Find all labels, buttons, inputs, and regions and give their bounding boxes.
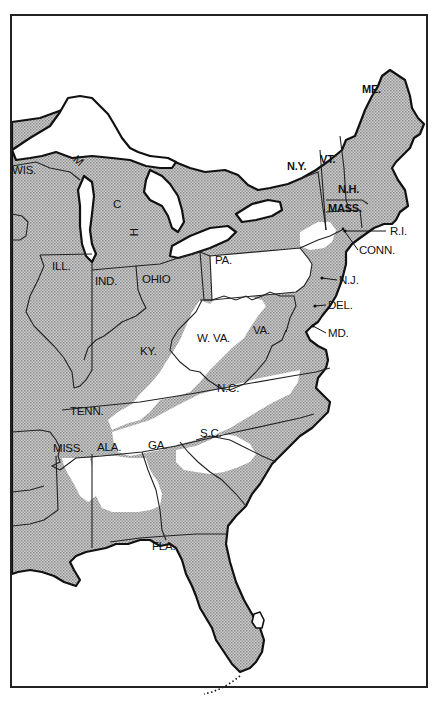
label-miss: MISS. [53,442,83,454]
label-conn: CONN. [359,244,395,256]
label-mich-h: H [128,228,140,236]
label-ga: GA. [148,439,167,451]
label-ri: R.I. [390,225,407,237]
label-wis: WIS. [12,164,36,176]
label-fla: FLA. [152,540,176,552]
lake-okeechobee [252,612,264,628]
label-nh: N.H. [338,183,359,195]
label-nc: N.C. [217,382,239,394]
label-sc: S.C. [200,427,222,439]
label-tenn: TENN. [70,405,104,417]
label-ohio: OHIO [142,273,171,285]
label-nj: N.J. [339,274,359,286]
label-ky: KY. [140,345,156,357]
label-md: MD. [328,327,348,339]
label-ill: ILL. [52,260,70,272]
eastern-us-map: WIS. M C H ILL. IND. OHIO PA. N.Y. VT. M… [0,0,434,701]
florida-keys [204,676,240,694]
label-me: ME. [362,83,381,95]
label-pa: PA. [215,254,232,266]
label-mass: MASS. [328,202,362,214]
label-wva: W. VA. [197,332,230,344]
label-ala: ALA. [97,441,121,453]
label-va: VA. [253,324,270,336]
label-mich-c: C [113,198,121,210]
label-ny: N.Y. [287,160,307,172]
label-del: DEL. [328,299,353,311]
label-vt: VT. [320,153,335,165]
label-ind: IND. [95,275,117,287]
